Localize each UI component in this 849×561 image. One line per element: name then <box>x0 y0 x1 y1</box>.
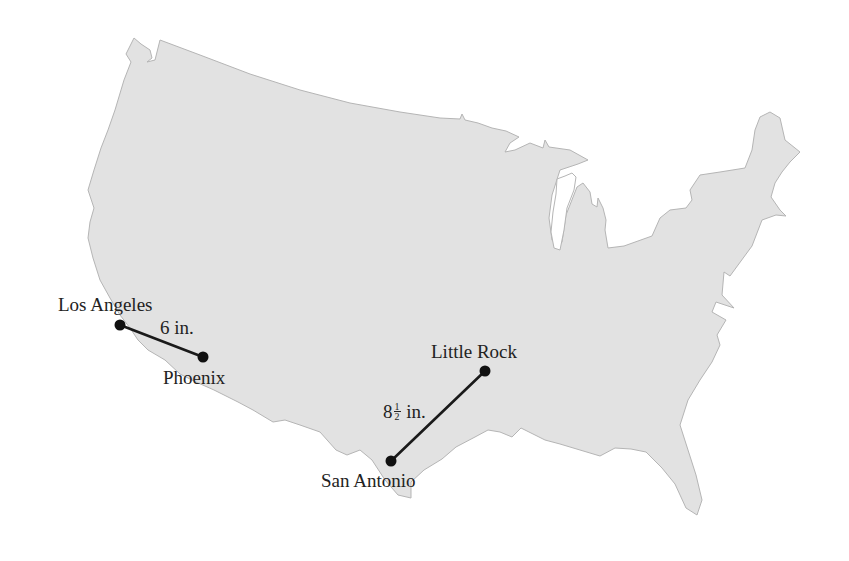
distance-unit: in. <box>406 401 426 422</box>
city-label-phoenix: Phoenix <box>163 368 225 387</box>
city-marker-san-antonio <box>386 456 397 467</box>
city-marker-phoenix <box>198 352 209 363</box>
fraction: 12 <box>394 402 401 421</box>
city-label-little-rock: Little Rock <box>431 342 517 361</box>
distance-unit: in. <box>174 317 194 338</box>
distance-value: 6 <box>160 317 170 338</box>
city-marker-little-rock <box>480 366 491 377</box>
us-landmass <box>88 38 800 515</box>
distance-label-la-phoenix: 6 in. <box>160 318 194 337</box>
distance-label-sa-littlerock: 812 in. <box>383 402 426 423</box>
us-map <box>0 0 849 561</box>
city-marker-los-angeles <box>115 320 126 331</box>
distance-value: 8 <box>383 401 393 422</box>
city-label-san-antonio: San Antonio <box>321 471 415 490</box>
city-label-los-angeles: Los Angeles <box>58 295 152 314</box>
